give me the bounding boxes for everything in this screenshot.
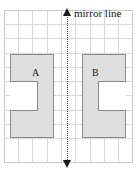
grid-line-vertical xyxy=(132,10,133,163)
grid-line-vertical xyxy=(4,10,5,163)
grid-line-vertical xyxy=(61,10,62,163)
mirror-line xyxy=(67,14,68,166)
shape-b xyxy=(82,54,126,138)
reflection-diagram: A B mirror line xyxy=(0,0,136,180)
grid-line-horizontal xyxy=(4,24,133,25)
shape-a-notch xyxy=(10,81,38,111)
arrow-down-icon xyxy=(63,160,71,168)
grid-line-horizontal xyxy=(4,138,133,139)
shape-b-notch xyxy=(98,81,126,111)
grid-line-horizontal xyxy=(4,38,133,39)
grid-line-vertical xyxy=(75,10,76,163)
mirror-line-label: mirror line xyxy=(74,7,121,19)
shape-b-label: B xyxy=(92,68,99,78)
shape-a-label: A xyxy=(32,68,39,78)
